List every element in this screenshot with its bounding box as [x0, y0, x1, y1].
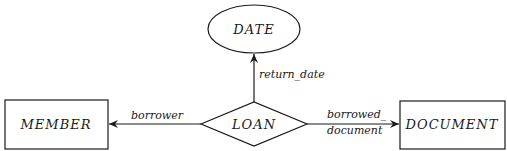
- entity-date-label: DATE: [232, 22, 274, 37]
- entity-member: MEMBER: [5, 100, 108, 149]
- entity-date: DATE: [208, 5, 300, 53]
- edge-borrowed-document-label-line1: borrowed_: [327, 108, 387, 121]
- er-diagram: DATE MEMBER DOCUMENT LOAN return_date bo…: [0, 0, 507, 151]
- relationship-loan-label: LOAN: [231, 117, 276, 132]
- edge-return-date: return_date: [254, 54, 325, 102]
- edge-borrower-label: borrower: [131, 109, 184, 122]
- edge-return-date-label: return_date: [259, 68, 325, 81]
- entity-document-label: DOCUMENT: [405, 117, 499, 132]
- relationship-loan: LOAN: [201, 102, 307, 146]
- entity-document: DOCUMENT: [400, 101, 505, 149]
- edge-borrowed-document-label-line2: document: [327, 124, 383, 137]
- entity-member-label: MEMBER: [20, 117, 92, 132]
- edge-borrowed-document: borrowed_ document: [307, 108, 399, 137]
- edge-borrower: borrower: [109, 109, 201, 124]
